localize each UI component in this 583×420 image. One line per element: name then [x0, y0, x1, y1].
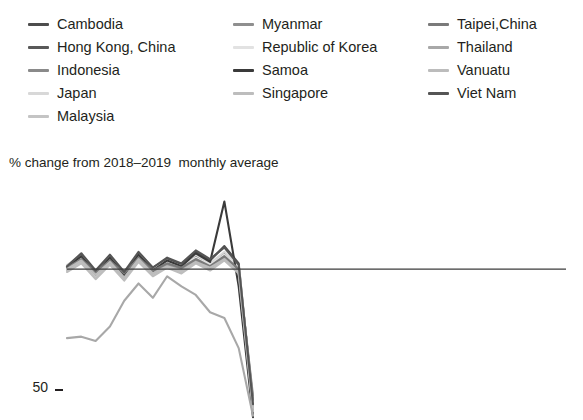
- legend-item-label: Samoa: [262, 63, 308, 78]
- legend-item-label: Indonesia: [57, 63, 120, 78]
- series-line: [67, 202, 253, 418]
- legend-item-vanuatu[interactable]: Vanuatu: [428, 59, 537, 82]
- legend-item-label: Vanuatu: [457, 63, 510, 78]
- series-line: [67, 259, 253, 407]
- y-tick-label-50: 50: [4, 379, 48, 395]
- legend-item-myanmar[interactable]: Myanmar: [233, 13, 377, 36]
- legend-swatch-icon: [428, 46, 449, 49]
- legend-item-cambodia[interactable]: Cambodia: [28, 13, 176, 36]
- legend-swatch-icon: [28, 115, 49, 118]
- legend-item-taipei-china[interactable]: Taipei,China: [428, 13, 537, 36]
- line-chart-svg: [0, 180, 583, 420]
- legend-item-label: Myanmar: [262, 17, 322, 32]
- legend-swatch-icon: [428, 23, 449, 26]
- legend-swatch-icon: [233, 46, 254, 49]
- legend-swatch-icon: [233, 23, 254, 26]
- legend-column-3: Taipei,China Thailand Vanuatu Viet Nam: [428, 13, 537, 105]
- legend-swatch-icon: [28, 23, 49, 26]
- legend-item-label: Thailand: [457, 40, 513, 55]
- legend-swatch-icon: [28, 92, 49, 95]
- legend-item-samoa[interactable]: Samoa: [233, 59, 377, 82]
- legend-column-1: Cambodia Hong Kong, China Indonesia Japa…: [28, 13, 176, 128]
- series-line: [67, 276, 253, 415]
- series-line: [67, 260, 253, 411]
- legend-item-label: Republic of Korea: [262, 40, 377, 55]
- legend-column-2: Myanmar Republic of Korea Samoa Singapor…: [233, 13, 377, 105]
- legend-swatch-icon: [28, 69, 49, 72]
- series-lines: [67, 202, 253, 418]
- chart-legend: Cambodia Hong Kong, China Indonesia Japa…: [0, 0, 583, 140]
- legend-item-label: Japan: [57, 86, 97, 101]
- legend-swatch-icon: [428, 92, 449, 95]
- legend-item-malaysia[interactable]: Malaysia: [28, 105, 176, 128]
- legend-swatch-icon: [428, 69, 449, 72]
- legend-item-label: Viet Nam: [457, 86, 516, 101]
- legend-item-singapore[interactable]: Singapore: [233, 82, 377, 105]
- legend-item-hong-kong-china[interactable]: Hong Kong, China: [28, 36, 176, 59]
- legend-item-indonesia[interactable]: Indonesia: [28, 59, 176, 82]
- legend-item-label: Cambodia: [57, 17, 123, 32]
- legend-item-viet-nam[interactable]: Viet Nam: [428, 82, 537, 105]
- legend-item-label: Hong Kong, China: [57, 40, 176, 55]
- legend-swatch-icon: [233, 92, 254, 95]
- legend-item-thailand[interactable]: Thailand: [428, 36, 537, 59]
- legend-item-label: Singapore: [262, 86, 328, 101]
- y-tick-mark-50: [55, 389, 63, 391]
- chart-plot-area: 50 0 −50: [0, 180, 583, 420]
- legend-item-label: Taipei,China: [457, 17, 537, 32]
- legend-swatch-icon: [28, 46, 49, 49]
- series-line: [67, 259, 253, 408]
- legend-item-republic-of-korea[interactable]: Republic of Korea: [233, 36, 377, 59]
- legend-swatch-icon: [233, 69, 254, 72]
- y-axis-caption: % change from 2018–2019 monthly average: [9, 155, 278, 170]
- legend-item-japan[interactable]: Japan: [28, 82, 176, 105]
- legend-item-label: Malaysia: [57, 109, 114, 124]
